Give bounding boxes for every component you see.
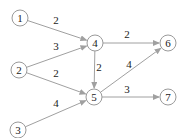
edges-layer: 23242243 xyxy=(25,14,160,127)
nodes-layer: 1234567 xyxy=(10,10,176,138)
edge-weight-label: 4 xyxy=(126,58,132,70)
node-2: 2 xyxy=(11,62,27,78)
edge-weight-label: 2 xyxy=(96,61,102,73)
node-3: 3 xyxy=(10,122,26,138)
node-1: 1 xyxy=(12,10,28,26)
node-label: 7 xyxy=(165,91,171,103)
node-label: 6 xyxy=(165,37,171,49)
edge-weight-label: 4 xyxy=(53,97,59,109)
graph-diagram: 23242243 1234567 xyxy=(0,0,188,138)
node-4: 4 xyxy=(87,35,103,51)
node-6: 6 xyxy=(160,35,176,51)
edge-5-6 xyxy=(100,48,160,92)
edge-weight-label: 2 xyxy=(53,14,59,26)
node-label: 2 xyxy=(16,64,22,76)
edge-weight-label: 3 xyxy=(124,83,130,95)
node-label: 1 xyxy=(17,12,23,24)
node-7: 7 xyxy=(160,89,176,105)
edge-weight-label: 2 xyxy=(53,67,59,79)
edge-4-5 xyxy=(94,51,95,88)
node-5: 5 xyxy=(86,89,102,105)
node-label: 5 xyxy=(91,91,97,103)
node-label: 3 xyxy=(15,124,21,136)
edge-weight-label: 3 xyxy=(53,40,59,52)
node-label: 4 xyxy=(92,37,98,49)
edge-weight-label: 2 xyxy=(124,28,130,40)
